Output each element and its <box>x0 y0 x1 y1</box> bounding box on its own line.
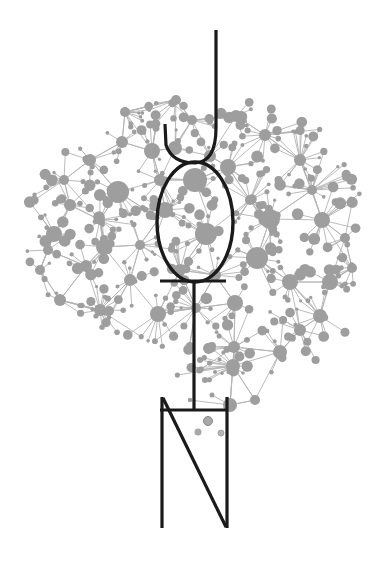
network-node <box>306 298 311 303</box>
network-node <box>349 197 353 201</box>
network-node <box>202 377 208 383</box>
network-node <box>304 134 308 138</box>
network-node <box>220 371 223 374</box>
network-node <box>224 175 233 184</box>
network-node <box>274 352 278 356</box>
network-node <box>278 347 281 350</box>
brain-network-illustration <box>0 0 386 568</box>
network-node <box>278 239 283 244</box>
network-node <box>178 186 188 196</box>
network-node <box>250 395 260 405</box>
network-node <box>212 322 219 329</box>
network-node <box>342 162 347 167</box>
network-node <box>228 143 236 151</box>
network-node <box>37 235 41 239</box>
network-node <box>169 243 175 249</box>
network-node <box>351 223 361 233</box>
network-node <box>104 306 114 316</box>
network-node <box>142 130 146 134</box>
network-node <box>180 323 187 330</box>
ring-node <box>218 430 224 436</box>
network-node <box>303 338 311 346</box>
network-node <box>137 111 140 114</box>
network-node <box>140 119 144 123</box>
network-node <box>187 115 197 125</box>
network-node <box>137 271 147 281</box>
network-node <box>151 110 161 120</box>
network-node <box>258 215 268 225</box>
network-node <box>350 281 356 287</box>
network-node <box>301 346 311 356</box>
network-node <box>312 356 320 364</box>
network-node <box>295 308 298 311</box>
network-node <box>285 308 295 318</box>
network-node <box>241 371 245 375</box>
network-node <box>296 126 305 135</box>
network-node <box>83 155 92 164</box>
network-node <box>114 199 117 202</box>
network-node <box>269 370 274 375</box>
network-node <box>101 223 105 227</box>
network-node <box>138 241 142 245</box>
network-node <box>308 233 320 245</box>
network-node <box>94 268 103 277</box>
network-node <box>202 188 212 198</box>
network-node <box>342 175 348 181</box>
network-node <box>197 138 206 147</box>
network-node <box>92 260 96 264</box>
network-node <box>308 175 315 182</box>
network-node <box>59 175 69 185</box>
network-node <box>128 266 132 270</box>
network-node <box>131 188 135 192</box>
network-node <box>238 174 246 182</box>
network-node <box>184 257 193 266</box>
network-node <box>183 344 193 354</box>
network-node <box>143 207 149 213</box>
network-node <box>139 115 143 119</box>
network-node <box>266 270 269 273</box>
network-node <box>322 290 327 295</box>
network-node <box>150 267 159 276</box>
network-node <box>88 170 94 176</box>
network-node <box>261 159 265 163</box>
network-node <box>139 334 144 339</box>
network-node <box>114 329 120 335</box>
network-node <box>292 208 304 220</box>
network-node <box>95 179 100 184</box>
network-node <box>107 232 116 241</box>
network-node <box>192 180 196 184</box>
network-node <box>248 161 253 166</box>
network-node <box>306 248 313 255</box>
network-node <box>322 195 326 199</box>
network-node <box>132 130 137 135</box>
network-node <box>179 112 189 122</box>
network-node <box>30 196 39 205</box>
network-node <box>90 307 94 311</box>
network-node <box>262 133 268 139</box>
network-node <box>223 168 232 177</box>
network-node <box>43 185 49 191</box>
network-node <box>90 165 95 170</box>
network-node <box>144 102 153 111</box>
network-node <box>278 354 287 363</box>
network-node <box>270 317 278 325</box>
network-node <box>294 154 306 166</box>
network-node <box>171 199 174 202</box>
network-node <box>154 293 158 297</box>
network-node <box>188 398 192 402</box>
network-node <box>141 195 147 201</box>
network-node <box>277 127 282 132</box>
network-node <box>154 101 159 106</box>
network-node <box>321 284 326 289</box>
network-node <box>221 351 225 355</box>
network-node <box>213 370 217 374</box>
network-node <box>194 209 205 220</box>
network-node <box>265 242 276 253</box>
network-node <box>294 178 305 189</box>
network-node <box>152 338 158 344</box>
network-node <box>296 117 307 128</box>
network-node <box>340 233 350 243</box>
network-node <box>99 253 110 264</box>
network-node <box>151 145 158 152</box>
network-node <box>122 260 126 264</box>
